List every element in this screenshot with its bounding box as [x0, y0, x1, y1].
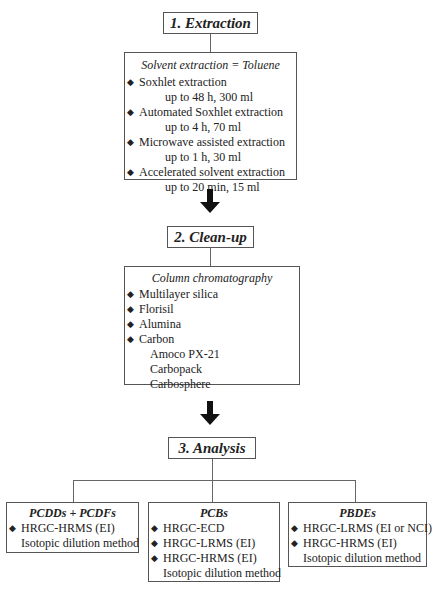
list-item: Accelerated solvent extraction: [125, 165, 296, 180]
list-item-detail: up to 48 h, 300 ml: [125, 90, 296, 105]
list-item: HRGC-HRMS (EI): [289, 536, 426, 551]
cleanup-panel: Column chromatography Multilayer silica …: [124, 266, 300, 385]
extraction-title-box: 1. Extraction: [163, 12, 258, 34]
list-item: HRGC-HRMS (EI): [149, 551, 279, 566]
pbdes-panel: PBDEs HRGC-LRMS (EI or NCI) HRGC-HRMS (E…: [288, 502, 427, 567]
connector-line: [355, 480, 356, 502]
list-item: Microwave assisted extraction: [125, 135, 296, 150]
branch-note: Isotopic dilution method: [289, 551, 426, 566]
list-item: HRGC-LRMS (EI): [149, 536, 279, 551]
list-subitem: Carbosphere: [125, 377, 299, 392]
list-item-detail: up to 1 h, 30 ml: [125, 150, 296, 165]
cleanup-subtitle: Column chromatography: [125, 271, 299, 286]
branch-note: Isotopic dilution method: [7, 536, 138, 551]
cleanup-title-box: 2. Clean-up: [167, 226, 254, 248]
list-item: Florisil: [125, 302, 299, 317]
cleanup-title: 2. Clean-up: [174, 229, 247, 245]
branch-note: Isotopic dilution method: [149, 566, 279, 581]
list-item: Multilayer silica: [125, 287, 299, 302]
analysis-title: 3. Analysis: [179, 440, 246, 456]
list-item: Automated Soxhlet extraction: [125, 105, 296, 120]
list-item-detail: up to 4 h, 70 ml: [125, 120, 296, 135]
list-item: Soxhlet extraction: [125, 75, 296, 90]
connector-line: [73, 480, 74, 502]
connector-line: [210, 34, 211, 52]
pcdds-pcdfs-panel: PCDDs + PCDFs HRGC-HRMS (EI) Isotopic di…: [6, 502, 139, 553]
list-item: HRGC-HRMS (EI): [7, 521, 138, 536]
branch-title: PCDDs + PCDFs: [7, 506, 138, 521]
branch-title: PBDEs: [289, 506, 426, 521]
pcbs-panel: PCBs HRGC-ECD HRGC-LRMS (EI) HRGC-HRMS (…: [148, 502, 280, 582]
branch-title: PCBs: [149, 506, 279, 521]
list-item: Alumina: [125, 317, 299, 332]
connector-line: [212, 459, 213, 480]
list-subitem: Carbopack: [125, 362, 299, 377]
extraction-subtitle: Solvent extraction = Toluene: [125, 58, 296, 73]
extraction-panel: Solvent extraction = Toluene Soxhlet ext…: [124, 52, 297, 180]
connector-line: [73, 480, 356, 481]
list-item: Carbon: [125, 332, 299, 347]
extraction-title: 1. Extraction: [170, 15, 251, 31]
analysis-title-box: 3. Analysis: [168, 437, 256, 459]
connector-line: [210, 248, 211, 266]
list-item: HRGC-LRMS (EI or NCI): [289, 521, 426, 536]
connector-line: [212, 480, 213, 502]
list-item: HRGC-ECD: [149, 521, 279, 536]
list-subitem: Amoco PX-21: [125, 347, 299, 362]
